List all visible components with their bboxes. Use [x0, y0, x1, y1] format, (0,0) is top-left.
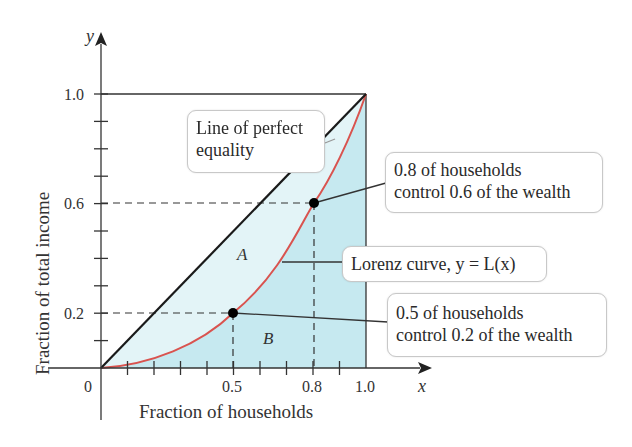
callout-point-05-line1: 0.5 of households	[396, 302, 598, 324]
callout-line-of-perfect-equality: Line of perfect equality	[187, 110, 325, 173]
y-axis-title: Fraction of total income	[32, 192, 53, 375]
region-a-label: A	[236, 245, 248, 264]
x-axis-title: Fraction of households	[139, 401, 313, 422]
callout-equality-line1: Line of perfect	[196, 117, 316, 139]
region-b-label: B	[263, 329, 274, 348]
callout-point-05-line2: control 0.2 of the wealth	[396, 324, 598, 346]
y-tick-label-0.2: 0.2	[64, 305, 84, 322]
y-axis-arrow-icon	[95, 32, 107, 46]
x-tick-label-1.0: 1.0	[355, 378, 375, 395]
y-axis-symbol: y	[84, 26, 94, 46]
y-tick-label-1.0: 1.0	[64, 86, 84, 103]
x-axis-symbol: x	[417, 376, 426, 396]
callout-point-08-line1: 0.8 of households	[394, 159, 594, 181]
callout-equality-line2: equality	[196, 139, 316, 161]
callout-point-08-line2: control 0.6 of the wealth	[394, 181, 594, 203]
x-tick-label-0.5: 0.5	[222, 378, 242, 395]
callout-point-05: 0.5 of households control 0.2 of the wea…	[387, 293, 607, 357]
data-point-0.8-0.6	[309, 198, 319, 208]
callout-lorenz-line1: Lorenz curve, y = L(x)	[351, 253, 538, 275]
data-point-0.5-0.2	[228, 308, 238, 318]
x-axis-arrow-icon	[418, 362, 432, 374]
x-tick-label-0.8: 0.8	[302, 378, 322, 395]
callout-point-08: 0.8 of households control 0.6 of the wea…	[385, 152, 603, 213]
callout-lorenz-curve: Lorenz curve, y = L(x)	[342, 246, 547, 282]
y-tick-label-0.6: 0.6	[64, 195, 84, 212]
lorenz-chart: y x 0 1.0 0.6 0.2 0.5 0.8 1.0 Fraction o…	[0, 0, 632, 447]
origin-label: 0	[84, 378, 92, 395]
